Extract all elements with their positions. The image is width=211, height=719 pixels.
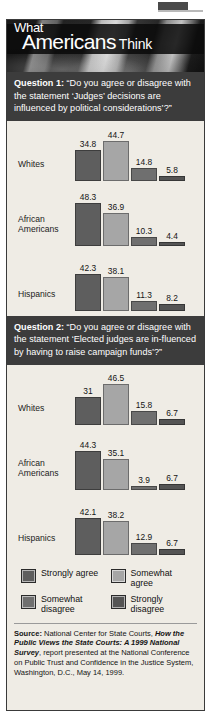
bar	[103, 141, 129, 180]
bar-column: 38.1	[103, 267, 129, 311]
question-2-prefix: Question 2:	[14, 322, 64, 332]
bar	[159, 304, 185, 311]
chart-row: Hispanics42.338.111.38.2	[7, 251, 204, 316]
bar	[75, 274, 101, 311]
bar-column: 42.1	[75, 508, 101, 555]
source-part1: National Center for State Courts,	[42, 629, 155, 638]
bar-column: 44.3	[75, 441, 101, 490]
category-label: Whites	[18, 159, 76, 170]
legend-item: Somewhat disagree	[21, 594, 105, 615]
bar	[131, 411, 157, 425]
bar-group: 42.338.111.38.2	[75, 253, 195, 311]
header-banner: What AmericansThink	[7, 20, 204, 72]
bar-value-label: 36.9	[108, 203, 124, 212]
source-note: Source: National Center for State Courts…	[14, 623, 197, 684]
infographic-card: What AmericansThink Question 1: “Do you …	[6, 19, 205, 711]
category-label: Whites	[18, 403, 76, 414]
bar	[131, 486, 157, 489]
chart-row: Whites34.844.714.85.8	[7, 121, 204, 186]
source-prefix: Source:	[14, 629, 42, 638]
bar-value-label: 31	[83, 387, 92, 396]
question-1-band: Question 1: “Do you agree or disagree wi…	[7, 72, 204, 121]
bar	[103, 277, 129, 311]
bar	[103, 213, 129, 245]
chart-2: Whites3146.515.86.7African Americans44.3…	[7, 365, 204, 560]
legend-swatch	[111, 569, 126, 583]
bar-value-label: 6.7	[166, 539, 178, 548]
legend-item: Strongly disagree	[111, 594, 195, 615]
bar-value-label: 11.3	[136, 291, 152, 300]
bar	[131, 301, 157, 311]
bar-value-label: 42.1	[80, 508, 96, 517]
source-part2: , report presented at the National Confe…	[14, 648, 193, 677]
bar-value-label: 44.7	[108, 131, 124, 140]
bar-group: 3146.515.86.7	[75, 367, 195, 425]
bar-value-label: 48.3	[80, 193, 96, 202]
bar-value-label: 5.8	[166, 166, 178, 175]
bar-value-label: 46.5	[108, 374, 124, 383]
question-1-prefix: Question 1:	[14, 78, 64, 88]
bar-value-label: 6.7	[166, 474, 178, 483]
bar-column: 6.7	[159, 409, 185, 425]
bar	[75, 150, 101, 181]
bar-column: 31	[75, 387, 101, 424]
legend-label: Strongly agree	[41, 568, 98, 579]
legend-label: Somewhat agree	[131, 568, 195, 589]
legend-swatch	[111, 595, 126, 609]
bar-column: 35.1	[103, 449, 129, 490]
bar	[75, 518, 101, 555]
bar-group: 48.336.910.34.4	[75, 188, 195, 246]
bar-value-label: 14.8	[136, 158, 152, 167]
bar-column: 6.7	[159, 474, 185, 490]
bar-column: 15.8	[131, 401, 157, 425]
bar-group: 44.335.13.96.7	[75, 432, 195, 490]
bar-column: 42.3	[75, 264, 101, 311]
bar	[159, 419, 185, 425]
page-title: What AmericansThink	[13, 21, 152, 52]
bar	[103, 459, 129, 490]
bar-group: 34.844.714.85.8	[75, 123, 195, 181]
chart-row: Hispanics42.138.212.96.7	[7, 495, 204, 560]
bar	[75, 397, 101, 424]
bar-value-label: 3.9	[138, 476, 150, 485]
bar-value-label: 42.3	[80, 264, 96, 273]
bar	[159, 549, 185, 555]
bar-column: 48.3	[75, 193, 101, 246]
bar-value-label: 12.9	[136, 533, 152, 542]
top-artifact-tail	[158, 10, 203, 12]
bar-column: 38.2	[103, 511, 129, 555]
category-label: African Americans	[18, 458, 76, 479]
bar-group: 42.138.212.96.7	[75, 497, 195, 555]
bar	[159, 176, 185, 181]
bar-column: 11.3	[131, 291, 157, 311]
bar	[103, 521, 129, 555]
title-americans: Americans	[22, 30, 116, 53]
bar-value-label: 44.3	[80, 441, 96, 450]
title-think: Think	[119, 36, 152, 52]
bar-column: 3.9	[131, 476, 157, 489]
bar	[131, 237, 157, 246]
legend: Strongly agreeSomewhat agreeSomewhat dis…	[7, 560, 204, 621]
bar-value-label: 10.3	[136, 227, 152, 236]
bar	[159, 484, 185, 490]
question-2-band: Question 2: “Do you agree or disagree wi…	[7, 316, 204, 365]
bar-column: 34.8	[75, 140, 101, 181]
bar	[131, 543, 157, 554]
bar	[75, 451, 101, 490]
bar-value-label: 34.8	[80, 140, 96, 149]
category-label: African Americans	[18, 214, 76, 235]
bar-column: 44.7	[103, 131, 129, 180]
bar-column: 4.4	[159, 232, 185, 246]
chart-row: African Americans48.336.910.34.4	[7, 186, 204, 251]
bar-value-label: 6.7	[166, 409, 178, 418]
category-label: Hispanics	[18, 289, 76, 300]
bar-value-label: 38.1	[108, 267, 124, 276]
legend-item: Somewhat agree	[111, 568, 195, 589]
legend-label: Strongly disagree	[131, 594, 195, 615]
bar-column: 8.2	[159, 294, 185, 311]
chart-1: Whites34.844.714.85.8African Americans48…	[7, 121, 204, 316]
bar-column: 5.8	[159, 166, 185, 181]
bar-column: 12.9	[131, 533, 157, 554]
bar-column: 14.8	[131, 158, 157, 181]
bar-column: 36.9	[103, 203, 129, 245]
